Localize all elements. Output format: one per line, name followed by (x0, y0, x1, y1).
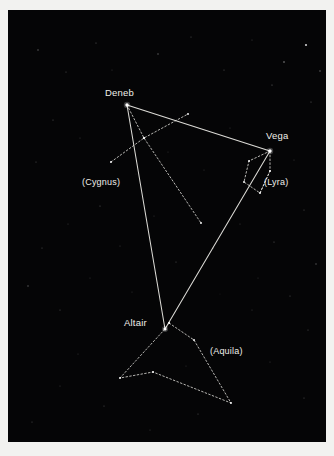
background-star (132, 292, 133, 293)
constellation-star (243, 181, 245, 183)
constellation-star (269, 170, 271, 172)
background-star (154, 216, 155, 217)
constellation-star (193, 339, 195, 341)
background-star (168, 152, 169, 153)
background-star (41, 247, 42, 248)
background-star (150, 430, 151, 431)
background-star (186, 366, 187, 367)
background-star (99, 205, 100, 206)
background-star (270, 362, 271, 363)
background-star (230, 128, 231, 129)
background-star (273, 241, 274, 242)
background-star (252, 40, 253, 41)
background-star (197, 413, 198, 414)
constellation-star (187, 113, 189, 115)
background-star (289, 295, 290, 296)
background-star (294, 160, 295, 161)
background-star (303, 397, 304, 398)
constellation-star (259, 192, 261, 194)
star-label-deneb: Deneb (105, 88, 134, 98)
star-label-vega: Vega (266, 131, 288, 141)
background-star (240, 224, 241, 225)
constellation-drawing (8, 10, 326, 442)
background-star (35, 161, 36, 162)
background-star (68, 224, 69, 225)
summer-triangle-outline (127, 105, 270, 329)
night-sky-panel: Deneb Vega Altair (Cygnus) (Lyra) (Aquil… (8, 10, 326, 442)
star-label-altair: Altair (124, 318, 147, 328)
constellation-star (119, 377, 121, 379)
background-star (78, 354, 79, 355)
star-marker-altair (163, 327, 166, 330)
background-star (310, 101, 311, 102)
constellation-star (248, 160, 250, 162)
background-star (258, 278, 259, 279)
constellation-star (152, 371, 154, 373)
background-star (95, 42, 96, 43)
background-star (103, 405, 104, 406)
background-star (252, 310, 253, 311)
constellation-star (200, 222, 202, 224)
background-star (190, 36, 191, 37)
constellation-star (230, 402, 232, 404)
background-star (283, 61, 285, 63)
background-star (80, 138, 81, 139)
constellation-label-lyra: (Lyra) (264, 178, 288, 187)
background-star (271, 84, 272, 85)
background-star (175, 261, 176, 262)
cygnus-spine-line (127, 105, 201, 223)
background-star (52, 119, 53, 120)
star-chart-figure: Deneb Vega Altair (Cygnus) (Lyra) (Aquil… (0, 0, 334, 456)
background-star (27, 285, 28, 286)
background-star (59, 309, 60, 310)
background-star (307, 329, 308, 330)
background-star (65, 71, 66, 72)
background-star (223, 69, 224, 70)
aquila-outline (120, 323, 231, 403)
star-marker-vega (268, 149, 271, 152)
background-star (157, 53, 158, 54)
background-star (120, 246, 121, 247)
background-star (90, 278, 91, 279)
star-marker-deneb (125, 103, 128, 106)
background-star (37, 49, 38, 50)
background-star (315, 263, 316, 264)
constellation-star (143, 137, 145, 139)
background-star (204, 170, 205, 171)
background-star (319, 70, 320, 71)
constellation-label-aquila: (Aquila) (210, 347, 243, 356)
background-star (112, 70, 113, 71)
background-star (220, 294, 221, 295)
background-star (303, 209, 304, 210)
background-star (136, 174, 137, 175)
constellation-star (110, 161, 112, 163)
background-star (31, 421, 32, 422)
constellation-label-cygnus: (Cygnus) (82, 178, 120, 187)
background-star (60, 386, 61, 387)
background-star (305, 44, 307, 46)
